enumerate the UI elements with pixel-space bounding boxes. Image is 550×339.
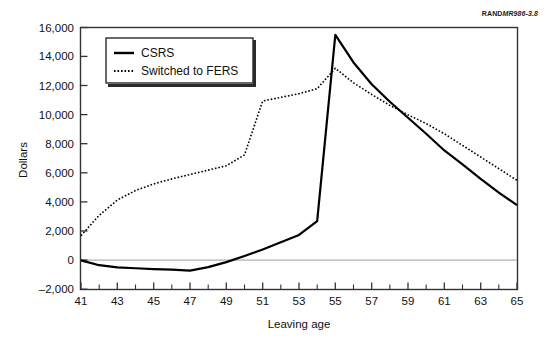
y-axis-title: Dollars (17, 142, 29, 178)
x-tick-label: 43 (111, 295, 124, 307)
legend-label-switched-to-fers: Switched to FERS (141, 64, 238, 78)
y-axis-ticks (81, 28, 88, 290)
y-tick-label: 8,000 (45, 138, 74, 150)
chart-legend: CSRS Switched to FERS (106, 38, 256, 87)
x-tick-label: 65 (511, 295, 524, 307)
y-tick-label: 16,000 (39, 22, 74, 34)
x-tick-label: 41 (75, 295, 88, 307)
x-axis-title: Leaving age (268, 318, 331, 330)
series-line-switched-to-fers (81, 68, 517, 235)
x-tick-label: 55 (329, 295, 342, 307)
legend-label-csrs: CSRS (141, 46, 174, 60)
x-tick-label: 49 (220, 295, 233, 307)
y-axis-tick-labels: –2,000 0 2,000 4,000 6,000 8,000 10,000 … (39, 22, 74, 296)
x-tick-label: 59 (402, 295, 415, 307)
x-tick-label: 61 (438, 295, 451, 307)
y-tick-label: 12,000 (39, 80, 74, 92)
x-tick-label: 45 (147, 295, 160, 307)
y-tick-label: 2,000 (45, 225, 74, 237)
legend-shadow-right (253, 40, 256, 87)
y-tick-label: 0 (68, 254, 74, 266)
y-tick-label: –2,000 (39, 283, 74, 295)
x-tick-label: 47 (184, 295, 197, 307)
y-tick-label: 6,000 (45, 167, 74, 179)
x-tick-label: 53 (293, 295, 306, 307)
legend-shadow-bottom (108, 84, 255, 87)
x-tick-label: 51 (256, 295, 269, 307)
figure-container: RANDMR986-3.8 –2,000 0 2,000 4,000 6,000 (0, 0, 550, 339)
x-axis-tick-labels: 41 43 45 47 49 51 53 55 57 59 61 63 65 (75, 295, 524, 307)
line-chart: –2,000 0 2,000 4,000 6,000 8,000 10,000 … (0, 0, 550, 339)
y-tick-label: 4,000 (45, 196, 74, 208)
y-tick-label: 10,000 (39, 109, 74, 121)
x-tick-label: 63 (474, 295, 487, 307)
x-axis-major-ticks (81, 283, 517, 290)
x-tick-label: 57 (365, 295, 378, 307)
y-tick-label: 14,000 (39, 50, 74, 62)
